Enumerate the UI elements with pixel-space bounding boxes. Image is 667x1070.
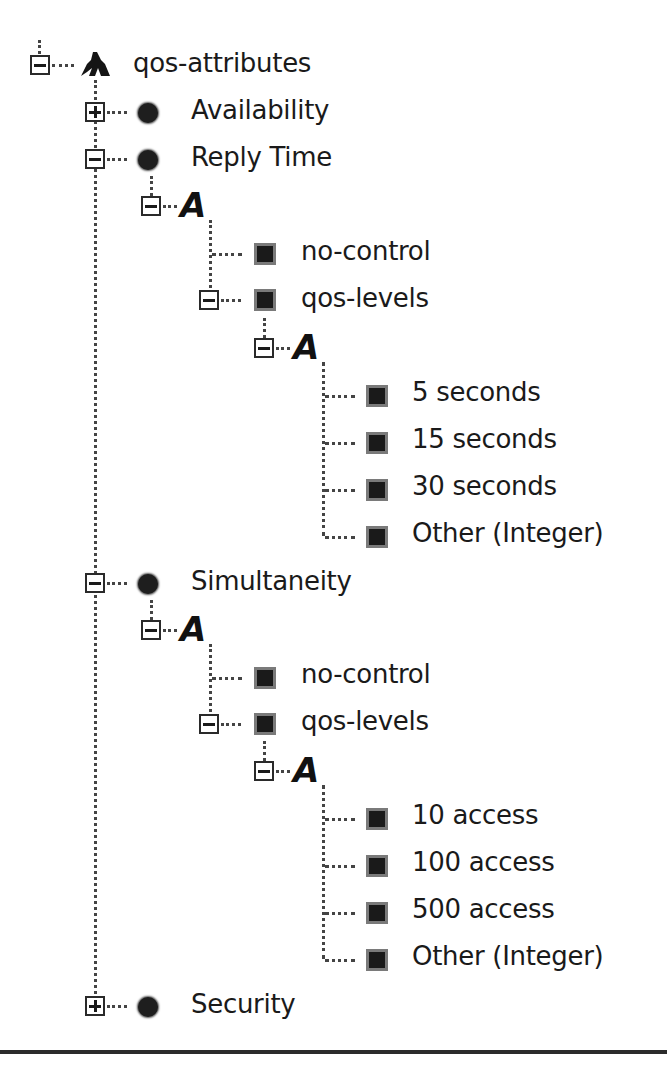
node-label-no-control[interactable]: no-control <box>301 236 430 266</box>
leaf-square-icon <box>366 902 388 924</box>
tree-connector <box>52 64 74 67</box>
node-label-qos-levels[interactable]: qos-levels <box>301 706 429 736</box>
tree-connector <box>163 205 177 208</box>
element-dot-icon <box>138 150 158 170</box>
node-label-availability[interactable]: Availability <box>191 95 329 125</box>
plus-icon-vertical <box>94 106 97 118</box>
simultaneity-choice-collapse-toggle[interactable] <box>141 620 161 640</box>
choice-icon[interactable]: A <box>293 330 319 364</box>
node-label-10-access[interactable]: 10 access <box>412 800 538 830</box>
tree-connector <box>325 818 355 821</box>
schema-tree-view: qos-attributes Availability Reply Time A… <box>0 0 667 1050</box>
tree-connector <box>212 677 242 680</box>
sim-qos-levels-collapse-toggle[interactable] <box>199 714 219 734</box>
node-label-simultaneity[interactable]: Simultaneity <box>191 566 352 596</box>
choice-icon[interactable]: A <box>180 612 206 646</box>
node-label-security[interactable]: Security <box>191 989 295 1019</box>
node-label-100-access[interactable]: 100 access <box>412 847 555 877</box>
minus-icon <box>145 205 157 208</box>
tree-guide-level1 <box>94 80 97 1006</box>
minus-icon <box>258 347 270 350</box>
tree-guide-sim-levels <box>322 785 325 959</box>
leaf-square-icon <box>254 713 276 735</box>
leaf-square-icon <box>366 949 388 971</box>
tree-guide-root <box>38 40 41 54</box>
minus-icon <box>89 582 101 585</box>
tree-connector <box>107 1005 127 1008</box>
element-dot-icon <box>138 997 158 1017</box>
security-expand-toggle[interactable] <box>85 996 105 1016</box>
tree-connector <box>276 347 290 350</box>
tree-connector <box>325 536 355 539</box>
tree-guide-reply-children <box>209 220 212 300</box>
leaf-square-icon <box>254 289 276 311</box>
availability-expand-toggle[interactable] <box>85 102 105 122</box>
leaf-square-icon <box>254 243 276 265</box>
tree-guide-reply-qos-choice <box>263 318 266 338</box>
tree-connector <box>325 865 355 868</box>
tree-connector <box>325 395 355 398</box>
tree-guide-sim-choice <box>150 600 153 620</box>
element-dot-icon <box>138 574 158 594</box>
node-label-reply-time[interactable]: Reply Time <box>191 142 332 172</box>
choice-icon[interactable]: A <box>180 188 206 222</box>
leaf-square-icon <box>366 855 388 877</box>
tree-connector <box>212 253 242 256</box>
leaf-square-icon <box>366 479 388 501</box>
minus-icon <box>145 629 157 632</box>
minus-icon <box>203 299 215 302</box>
node-label-other-integer[interactable]: Other (Integer) <box>412 941 603 971</box>
node-label-qos-levels[interactable]: qos-levels <box>301 283 429 313</box>
node-label-30-seconds[interactable]: 30 seconds <box>412 471 557 501</box>
tree-connector <box>325 912 355 915</box>
tree-guide-reply-choice <box>150 176 153 196</box>
tree-guide-reply-levels <box>322 362 325 536</box>
simultaneity-collapse-toggle[interactable] <box>85 573 105 593</box>
reply-qos-choice-collapse-toggle[interactable] <box>254 338 274 358</box>
leaf-square-icon <box>366 808 388 830</box>
node-label-other-integer[interactable]: Other (Integer) <box>412 518 603 548</box>
sequence-icon <box>79 50 111 78</box>
minus-icon <box>34 64 46 67</box>
leaf-square-icon <box>366 385 388 407</box>
minus-icon <box>203 723 215 726</box>
tree-connector <box>325 959 355 962</box>
tree-connector <box>221 299 241 302</box>
panel-bottom-border <box>0 1050 667 1054</box>
tree-connector <box>276 770 290 773</box>
leaf-square-icon <box>366 526 388 548</box>
root-collapse-toggle[interactable] <box>30 55 50 75</box>
node-label-15-seconds[interactable]: 15 seconds <box>412 424 557 454</box>
tree-connector <box>325 442 355 445</box>
node-label-500-access[interactable]: 500 access <box>412 894 555 924</box>
tree-connector <box>107 111 127 114</box>
tree-connector <box>325 489 355 492</box>
leaf-square-icon <box>254 667 276 689</box>
tree-connector <box>107 582 127 585</box>
minus-icon <box>258 770 270 773</box>
node-label-5-seconds[interactable]: 5 seconds <box>412 377 540 407</box>
reply-qos-levels-collapse-toggle[interactable] <box>199 290 219 310</box>
node-label-no-control[interactable]: no-control <box>301 659 430 689</box>
leaf-square-icon <box>366 432 388 454</box>
plus-icon-vertical <box>94 1000 97 1012</box>
choice-icon[interactable]: A <box>293 753 319 787</box>
tree-connector <box>221 723 241 726</box>
node-label-root[interactable]: qos-attributes <box>133 48 311 78</box>
reply-time-choice-collapse-toggle[interactable] <box>141 196 161 216</box>
minus-icon <box>89 158 101 161</box>
tree-connector <box>107 158 127 161</box>
sim-qos-choice-collapse-toggle[interactable] <box>254 761 274 781</box>
reply-time-collapse-toggle[interactable] <box>85 149 105 169</box>
tree-connector <box>163 629 177 632</box>
tree-guide-sim-qos-choice <box>263 741 266 761</box>
tree-guide-sim-children <box>209 644 212 724</box>
element-dot-icon <box>138 103 158 123</box>
